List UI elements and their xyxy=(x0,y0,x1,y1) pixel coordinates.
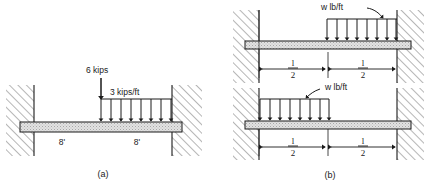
diagram-a-right-span-label: 8' xyxy=(134,137,141,147)
figure-background xyxy=(0,0,430,193)
svg-text:2: 2 xyxy=(291,148,296,158)
svg-text:2: 2 xyxy=(291,70,296,80)
diagram-a-left-span-label: 8' xyxy=(59,137,66,147)
beam-loading-figure: 6 kips 3 kips/ft 8' 8' (a) xyxy=(0,0,430,193)
caption-a: (a) xyxy=(98,169,109,179)
diagram-b-top-load-label: w lb/ft xyxy=(320,2,344,12)
diagram-a-beam xyxy=(20,122,182,132)
diagram-b-bottom-load-label: w lb/ft xyxy=(324,82,348,92)
svg-text:2: 2 xyxy=(361,148,366,158)
diagram-a-right-wall xyxy=(172,85,202,156)
svg-text:2: 2 xyxy=(361,70,366,80)
diagram-b-top-beam xyxy=(245,41,411,49)
diagram-b-bottom-beam xyxy=(245,121,411,129)
diagram-a-left-wall xyxy=(6,85,34,156)
diagram-a-point-load-label: 6 kips xyxy=(86,65,108,75)
caption-b: (b) xyxy=(325,170,336,180)
diagram-a-distributed-load-label: 3 kips/ft xyxy=(110,87,140,97)
